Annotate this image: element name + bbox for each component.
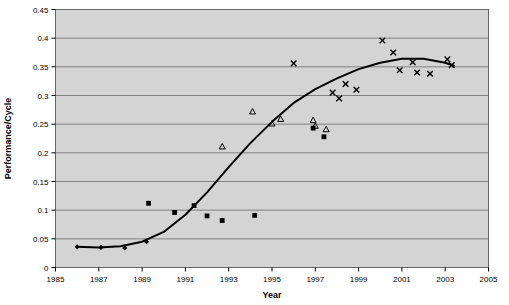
x-axis-title: Year bbox=[262, 290, 282, 300]
performance-cycle-scatter-chart: 00.050.10.150.20.250.30.350.40.45 198519… bbox=[0, 0, 509, 305]
y-tick-label: 0.4 bbox=[37, 34, 49, 43]
data-point-square bbox=[220, 218, 225, 223]
data-point-square bbox=[172, 210, 177, 215]
x-tick-label: 2003 bbox=[436, 275, 454, 284]
x-tick-label: 1995 bbox=[263, 275, 281, 284]
plot-background bbox=[56, 10, 489, 268]
x-tick-label: 2005 bbox=[480, 275, 498, 284]
x-tick-label: 1987 bbox=[90, 275, 108, 284]
y-tick-label: 0.2 bbox=[37, 149, 49, 158]
y-axis-tick-labels: 00.050.10.150.20.250.30.350.40.45 bbox=[33, 6, 49, 273]
y-tick-label: 0.35 bbox=[33, 63, 49, 72]
x-tick-label: 1989 bbox=[133, 275, 151, 284]
data-point-square bbox=[146, 201, 151, 206]
y-tick-label: 0.05 bbox=[33, 235, 49, 244]
y-axis-title: Performance/Cycle bbox=[3, 98, 13, 180]
y-tick-label: 0.1 bbox=[37, 206, 49, 215]
x-tick-label: 1993 bbox=[220, 275, 238, 284]
y-tick-label: 0 bbox=[44, 264, 49, 273]
x-tick-label: 1997 bbox=[306, 275, 324, 284]
data-point-square bbox=[252, 213, 257, 218]
y-tick-label: 0.3 bbox=[37, 92, 49, 101]
x-tick-label: 2001 bbox=[393, 275, 411, 284]
y-tick-label: 0.45 bbox=[33, 6, 49, 15]
x-tick-label: 1985 bbox=[47, 275, 65, 284]
data-point-square bbox=[192, 203, 197, 208]
x-axis-tick-labels: 1985198719891991199319951997199920012003… bbox=[47, 275, 498, 284]
data-point-square bbox=[205, 214, 210, 219]
chart-container: 00.050.10.150.20.250.30.350.40.45 198519… bbox=[0, 0, 509, 305]
x-tick-label: 1991 bbox=[177, 275, 195, 284]
y-tick-label: 0.15 bbox=[33, 178, 49, 187]
data-point-square bbox=[322, 134, 327, 139]
y-tick-label: 0.25 bbox=[33, 120, 49, 129]
x-tick-label: 1999 bbox=[350, 275, 368, 284]
